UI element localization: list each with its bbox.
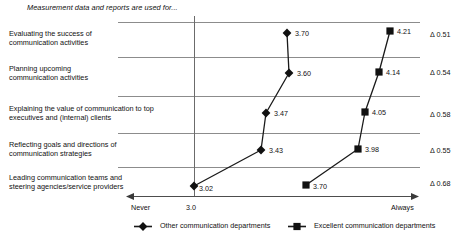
- legend-label-excellent: Excellent communication departments: [314, 221, 435, 230]
- data-point-other-1: [285, 69, 294, 78]
- data-label-excellent-2: 4.05: [372, 108, 386, 117]
- data-point-other-0: [283, 29, 292, 38]
- data-label-other-2: 3.47: [274, 109, 288, 118]
- legend-label-other: Other communication departments: [160, 221, 270, 230]
- data-point-excellent-1: [375, 68, 382, 75]
- delta-value-4: Δ 0.68: [430, 179, 450, 188]
- data-point-excellent-2: [361, 108, 368, 115]
- x-axis-right-arrow-icon: [411, 193, 419, 200]
- x-axis-left-arrow-icon: [126, 193, 134, 200]
- delta-value-1: Δ 0.54: [430, 68, 450, 77]
- delta-value-2: Δ 0.58: [430, 110, 450, 119]
- data-label-excellent-1: 4.14: [386, 68, 400, 77]
- delta-value-0: Δ 0.51: [430, 30, 450, 39]
- data-label-other-4: 3.02: [199, 184, 213, 193]
- data-label-other-1: 3.60: [297, 69, 311, 78]
- data-label-other-3: 3.43: [269, 146, 283, 155]
- legend-marker-other-icon: [134, 222, 152, 231]
- data-label-other-0: 3.70: [295, 29, 309, 38]
- axis-tick-label-3-0: 3.0: [186, 203, 196, 212]
- axis-caption-never: Never: [131, 203, 150, 212]
- data-point-other-3: [257, 146, 266, 155]
- data-point-other-2: [262, 109, 271, 118]
- chart-container: Measurement data and reports are used fo…: [0, 0, 476, 242]
- delta-value-3: Δ 0.55: [430, 146, 450, 155]
- data-label-excellent-0: 4.21: [397, 27, 411, 36]
- legend-marker-excellent-icon: [288, 223, 306, 230]
- data-point-excellent-3: [354, 145, 361, 152]
- data-point-other-4: [190, 182, 199, 191]
- axis-caption-always: Always: [391, 203, 414, 212]
- data-label-excellent-3: 3.98: [365, 145, 379, 154]
- data-label-excellent-4: 3.70: [313, 182, 327, 191]
- data-point-excellent-4: [302, 181, 309, 188]
- data-point-excellent-0: [386, 27, 393, 34]
